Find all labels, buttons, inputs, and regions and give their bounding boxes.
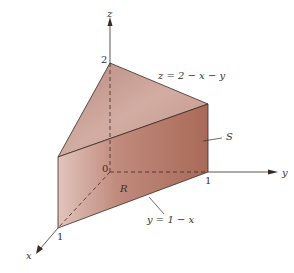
surface-s-label: S [226, 131, 233, 142]
x-tick-label: 1 [57, 231, 63, 242]
x-axis-label: x [26, 250, 32, 261]
surface-equation: z = 2 − x − y [157, 70, 225, 81]
y-axis-label: y [281, 167, 288, 178]
region-r-label: R [119, 183, 128, 194]
z-tick-label: 2 [101, 54, 107, 65]
y-axis-arrow-icon [268, 170, 278, 175]
z-axis-label: z [106, 8, 113, 19]
y-tick-label: 1 [205, 175, 211, 186]
boundary-equation: y = 1 − x [146, 214, 194, 225]
origin-label: 0 [102, 163, 108, 174]
x-axis [40, 228, 58, 249]
solid-diagram: z 2 y 1 x 1 0 z = 2 − x − y S R y = 1 − … [0, 0, 294, 273]
boundary-pointer [149, 197, 164, 214]
